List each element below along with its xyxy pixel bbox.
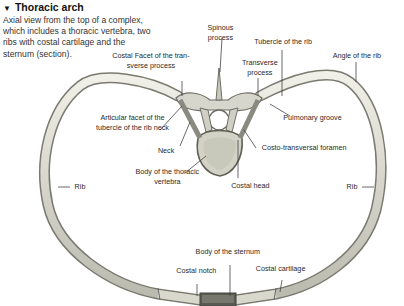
- label-spinous-process: Spinousprocess: [207, 23, 233, 42]
- label-costal-notch: Costal notch: [176, 266, 216, 276]
- label-costal-cartilage: Costal cartilage: [256, 264, 306, 274]
- label-rib-right: Rib: [347, 182, 358, 192]
- label-transverse-process: Transverseprocess: [242, 58, 278, 77]
- thoracic-arch-illustration: [0, 0, 404, 306]
- label-body-of-sternum: Body of the sternum: [196, 247, 260, 257]
- label-tubercle-of-rib: Tubercle of the rib: [254, 37, 312, 47]
- label-rib-left: Rib: [75, 182, 86, 192]
- label-articular-facet-tubercle: Articular facet of thetubercle of the ri…: [96, 113, 169, 132]
- label-neck: Neck: [158, 146, 174, 156]
- label-costal-head: Costal head: [231, 181, 269, 191]
- label-body-thoracic-vertebra: Body of the thoracicvertebra: [136, 167, 200, 186]
- label-angle-of-rib: Angle of the rib: [333, 51, 381, 61]
- label-costal-facet-transverse-process: Costal Facet of the tran-sverse process: [112, 51, 189, 70]
- label-costo-transversal-foramen: Costo-transversal foramen: [262, 143, 347, 153]
- label-pulmonary-groove: Pulmonary groove: [283, 113, 341, 123]
